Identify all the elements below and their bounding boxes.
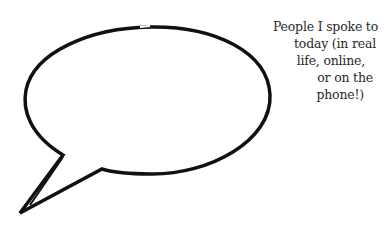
caption-line: life, online,: [244, 52, 378, 69]
caption-text: People I spoke to today (in real life, o…: [244, 18, 378, 103]
caption-line: today (in real: [244, 35, 378, 52]
caption-line: People I spoke to: [244, 18, 378, 35]
caption-line: phone!): [244, 86, 378, 103]
caption-line: or on the: [244, 69, 378, 86]
